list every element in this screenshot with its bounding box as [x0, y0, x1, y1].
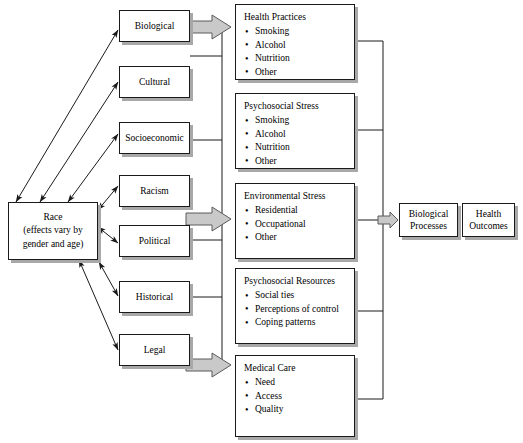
node-biological[interactable]: Biological: [119, 10, 190, 42]
node-race[interactable]: Race (effects vary by gender and age): [8, 202, 98, 260]
node-biological-label: Biological: [135, 20, 175, 33]
diagram-canvas: Race (effects vary by gender and age) Bi…: [0, 0, 523, 443]
node-medical-care-title: Medical Care: [244, 362, 354, 375]
node-environmental-stress[interactable]: Environmental Stress Residential Occupat…: [235, 183, 355, 259]
link-race-legal: [79, 260, 118, 350]
race-determinant-links: [16, 30, 118, 350]
list-item: Other: [244, 231, 354, 245]
list-item: Access: [244, 390, 354, 404]
list-item: Other: [244, 155, 354, 169]
list-item: Occupational: [244, 218, 354, 232]
link-race-historical: [99, 262, 118, 296]
node-cultural[interactable]: Cultural: [119, 66, 190, 98]
thick-arrow-health-practices: [186, 15, 231, 39]
node-biological-processes[interactable]: Biological Processes: [399, 203, 458, 237]
list-item: Need: [244, 376, 354, 390]
node-environmental-stress-items: Residential Occupational Other: [244, 204, 354, 245]
determinant-bus-connectors: [190, 26, 222, 365]
link-race-biological: [16, 30, 118, 202]
node-health-practices-title: Health Practices: [244, 11, 354, 24]
race-label-line2: (effects vary by: [23, 224, 82, 238]
node-health-outcomes[interactable]: Health Outcomes: [462, 203, 515, 237]
node-socioeconomic[interactable]: Socioeconomic: [119, 122, 190, 154]
node-biological-processes-line1: Biological: [409, 208, 449, 221]
thick-arrow-medical-care: [186, 353, 231, 377]
node-cultural-label: Cultural: [139, 76, 170, 89]
link-race-socioeconomic: [68, 134, 118, 202]
list-item: Quality: [244, 403, 354, 417]
list-item: Residential: [244, 204, 354, 218]
node-medical-care-items: Need Access Quality: [244, 376, 354, 417]
race-label-line1: Race: [44, 211, 63, 225]
node-historical[interactable]: Historical: [119, 281, 190, 313]
node-psychosocial-resources-items: Social ties Perceptions of control Copin…: [244, 289, 354, 330]
list-item: Alcohol: [244, 128, 354, 142]
node-historical-label: Historical: [136, 291, 173, 304]
thick-arrow-environmental-stress: [186, 207, 231, 231]
node-psychosocial-resources-title: Psychosocial Resources: [244, 275, 354, 288]
node-health-practices-items: Smoking Alcohol Nutrition Other: [244, 25, 354, 79]
node-racism[interactable]: Racism: [119, 175, 190, 207]
node-medical-care[interactable]: Medical Care Need Access Quality: [235, 355, 355, 437]
list-item: Alcohol: [244, 39, 354, 53]
node-environmental-stress-title: Environmental Stress: [244, 190, 354, 203]
node-psychosocial-stress[interactable]: Psychosocial Stress Smoking Alcohol Nutr…: [235, 93, 355, 169]
list-item: Smoking: [244, 25, 354, 39]
list-item: Social ties: [244, 289, 354, 303]
node-health-outcomes-line2: Outcomes: [469, 220, 508, 233]
link-race-political: [98, 227, 118, 243]
node-psychosocial-stress-title: Psychosocial Stress: [244, 100, 354, 113]
race-label-line3: gender and age): [23, 238, 84, 252]
node-socioeconomic-label: Socioeconomic: [125, 132, 184, 145]
list-item: Nutrition: [244, 141, 354, 155]
list-item: Smoking: [244, 114, 354, 128]
node-political[interactable]: Political: [119, 225, 190, 257]
list-item: Perceptions of control: [244, 303, 354, 317]
node-health-practices[interactable]: Health Practices Smoking Alcohol Nutriti…: [235, 4, 355, 80]
list-item: Nutrition: [244, 52, 354, 66]
node-biological-processes-line2: Processes: [410, 220, 447, 233]
thick-arrow-biological-processes: [378, 212, 398, 228]
node-political-label: Political: [139, 235, 171, 248]
link-race-racism: [98, 186, 118, 210]
node-legal-label: Legal: [144, 344, 166, 357]
node-racism-label: Racism: [140, 185, 169, 198]
node-legal[interactable]: Legal: [119, 334, 190, 366]
node-psychosocial-resources[interactable]: Psychosocial Resources Social ties Perce…: [235, 268, 355, 344]
thick-arrows: [186, 15, 231, 377]
list-item: Other: [244, 66, 354, 80]
node-psychosocial-stress-items: Smoking Alcohol Nutrition Other: [244, 114, 354, 168]
node-health-outcomes-line1: Health: [476, 208, 501, 221]
list-item: Coping patterns: [244, 316, 354, 330]
